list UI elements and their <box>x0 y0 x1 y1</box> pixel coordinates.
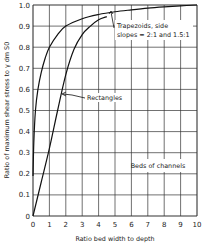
x-tick-label: 0 <box>31 221 35 229</box>
shear-stress-chart: 00.10.20.30.40.50.60.70.80.91.0 01234567… <box>0 0 203 246</box>
y-tick-label: 0.8 <box>19 44 30 52</box>
rectangles-leader-arrow <box>62 92 85 98</box>
x-tick-label: 9 <box>178 221 182 229</box>
x-axis-label: Ratio bed width to depth <box>75 235 154 243</box>
y-tick-label: 0.7 <box>19 65 30 73</box>
trapezoid-label-line2: slopes = 2:1 and 1.5:1 <box>117 31 190 39</box>
y-tick-label: 1.0 <box>19 2 30 10</box>
x-tick-label: 7 <box>146 221 150 229</box>
y-axis-label: Ratio of maximum shear stress to γ dm S0 <box>3 42 11 178</box>
y-tick-label: 0.2 <box>19 170 30 178</box>
y-tick-label: 0.1 <box>19 191 30 199</box>
x-tick-label: 3 <box>80 221 84 229</box>
x-tick-label: 5 <box>113 221 117 229</box>
beds-label: Beds of channels <box>131 162 186 170</box>
y-tick-label: 0.6 <box>19 86 31 94</box>
y-axis-ticks: 00.10.20.30.40.50.60.70.80.91.0 <box>19 2 31 221</box>
y-tick-label: 0.5 <box>19 107 30 115</box>
x-tick-label: 6 <box>129 221 134 229</box>
trapezoid-label-line1: Trapezoids, side <box>116 22 168 30</box>
y-tick-label: 0 <box>26 213 30 221</box>
y-tick-label: 0.3 <box>19 149 30 157</box>
rectangles-curve <box>33 17 107 216</box>
trapezoid-leader-arrow <box>109 11 114 28</box>
x-tick-label: 1 <box>47 221 51 229</box>
y-tick-label: 0.9 <box>19 23 30 31</box>
x-tick-label: 8 <box>162 221 166 229</box>
x-tick-label: 10 <box>193 221 202 229</box>
x-axis-ticks: 012345678910 <box>31 221 202 229</box>
x-tick-label: 4 <box>96 221 101 229</box>
rectangles-label: Rectangles <box>87 94 123 102</box>
y-tick-label: 0.4 <box>19 128 31 136</box>
x-tick-label: 2 <box>64 221 68 229</box>
